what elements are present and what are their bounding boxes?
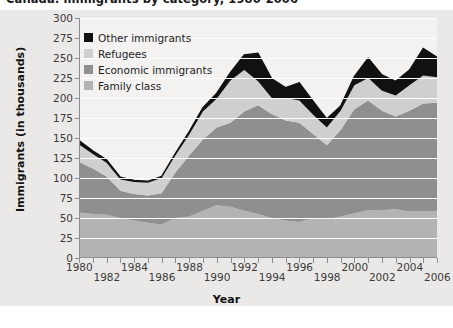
y-axis-tick-mark <box>75 78 79 79</box>
x-axis-tick-label: 1996 <box>286 262 313 273</box>
x-axis-tick-label: 2002 <box>369 272 396 283</box>
y-axis-tick-label: 100 <box>29 173 73 183</box>
y-axis-tick-label: 25 <box>29 233 73 243</box>
x-axis-tick-mark <box>217 258 218 263</box>
legend-item-label: Economic immigrants <box>98 64 212 76</box>
y-axis-tick-label: 125 <box>29 153 73 163</box>
y-axis-tick-mark <box>75 198 79 199</box>
x-axis-tick-mark <box>272 258 273 263</box>
x-axis-tick-mark <box>162 258 163 263</box>
y-axis-tick-label: 250 <box>29 53 73 63</box>
gridline <box>79 138 437 139</box>
y-axis-tick-label: 200 <box>29 93 73 103</box>
x-axis-tick-mark <box>258 258 259 263</box>
y-axis-label: Immigrants (in thousands) <box>14 47 27 212</box>
y-axis-tick-mark <box>75 158 79 159</box>
legend-item-label: Refugees <box>98 48 147 60</box>
y-axis-tick-mark <box>75 238 79 239</box>
chart-title: Canada: immigrants by category, 1980-200… <box>6 0 298 6</box>
x-axis-label: Year <box>0 293 453 306</box>
y-axis-tick-label: 300 <box>29 13 73 23</box>
x-axis-tick-label: 1984 <box>121 262 148 273</box>
x-axis-tick-mark <box>437 258 438 263</box>
x-axis-tick-mark <box>327 258 328 263</box>
gridline <box>79 238 437 239</box>
legend-item[interactable]: Economic immigrants <box>84 62 212 77</box>
y-axis-tick-label: 150 <box>29 133 73 143</box>
y-axis-tick-mark <box>75 138 79 139</box>
y-axis-tick-label: 50 <box>29 213 73 223</box>
legend-item[interactable]: Refugees <box>84 46 212 61</box>
gridline <box>79 198 437 199</box>
legend-swatch-icon <box>84 49 93 58</box>
x-axis-tick-label: 1986 <box>149 272 176 283</box>
x-axis-tick-mark <box>93 258 94 263</box>
gridline <box>79 158 437 159</box>
y-axis-tick-mark <box>75 18 79 19</box>
legend-item-label: Family class <box>98 80 161 92</box>
legend-swatch-icon <box>84 65 93 74</box>
gridline <box>79 218 437 219</box>
legend-item[interactable]: Family class <box>84 78 212 93</box>
y-axis-tick-label: 275 <box>29 33 73 43</box>
y-axis-tick-mark <box>75 178 79 179</box>
x-axis-tick-mark <box>203 258 204 263</box>
x-axis-tick-label: 2006 <box>424 272 451 283</box>
y-axis-tick-label: 175 <box>29 113 73 123</box>
x-axis-tick-label: 1994 <box>259 272 286 283</box>
y-axis-tick-mark <box>75 58 79 59</box>
x-axis-tick-label: 1988 <box>176 262 203 273</box>
gridline <box>79 178 437 179</box>
y-axis-tick-mark <box>75 118 79 119</box>
x-axis-tick-mark <box>107 258 108 263</box>
x-axis-tick-mark <box>148 258 149 263</box>
x-axis-tick-label: 2000 <box>341 262 368 273</box>
x-axis-tick-label: 1998 <box>314 272 341 283</box>
x-axis-tick-mark <box>382 258 383 263</box>
x-axis-tick-label: 2004 <box>397 262 424 273</box>
y-axis-tick-mark <box>75 38 79 39</box>
legend-swatch-icon <box>84 81 93 90</box>
x-axis-tick-mark <box>313 258 314 263</box>
chart-page: Canada: immigrants by category, 1980-200… <box>0 0 453 328</box>
x-axis-tick-mark <box>423 258 424 263</box>
y-axis-tick-label: 75 <box>29 193 73 203</box>
x-axis-tick-mark <box>368 258 369 263</box>
legend-item-label: Other immigrants <box>98 32 191 44</box>
gridline <box>79 98 437 99</box>
x-axis-tick-label: 1990 <box>204 272 231 283</box>
y-axis-tick-label: 225 <box>29 73 73 83</box>
gridline <box>79 18 437 19</box>
y-axis-tick-mark <box>75 218 79 219</box>
legend-swatch-icon <box>84 33 93 42</box>
x-axis-tick-label: 1992 <box>231 262 258 273</box>
x-axis-tick-label: 1980 <box>66 262 93 273</box>
legend-item[interactable]: Other immigrants <box>84 30 212 45</box>
gridline <box>79 118 437 119</box>
chart-legend: Other immigrantsRefugeesEconomic immigra… <box>84 30 212 94</box>
x-axis-tick-label: 1982 <box>94 272 121 283</box>
area-band-economic-immigrants <box>79 100 437 224</box>
y-axis-tick-mark <box>75 98 79 99</box>
